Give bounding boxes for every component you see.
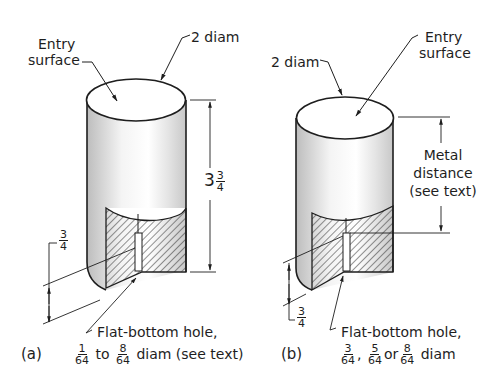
metal-distance-line1: Metal <box>406 146 480 164</box>
metal-distance-line2: distance <box>406 164 480 182</box>
metal-distance-line3: (see text) <box>406 182 480 200</box>
hole-depth-label-a: 34 <box>58 229 69 252</box>
suffix-text: diam <box>421 346 456 362</box>
surface-label-line1: surface <box>419 45 471 61</box>
hole-label-a: Flat-bottom hole, <box>97 324 218 340</box>
size-fraction-2: 864 <box>115 343 131 366</box>
height-fraction: 34 <box>216 170 225 193</box>
suffix-text: diam (see text) <box>136 346 243 362</box>
height-dimension-label-a: 334 <box>204 170 226 193</box>
denominator: 4 <box>59 241 68 252</box>
height-whole: 3 <box>204 170 215 190</box>
denominator: 64 <box>399 355 415 366</box>
entry-surface-label-b: Entry surface <box>419 29 471 61</box>
denominator: 64 <box>115 355 131 366</box>
cylinder-a <box>87 79 187 290</box>
denominator: 4 <box>216 182 225 193</box>
denominator: 64 <box>340 355 356 366</box>
denominator: 64 <box>367 355 383 366</box>
or-separator: or <box>384 346 398 362</box>
denominator: 64 <box>74 355 90 366</box>
comma-separator: , <box>357 346 361 362</box>
hole-size-b: 364, 564or864 diam <box>339 343 456 366</box>
size-fraction-1: 164 <box>74 343 90 366</box>
size-fraction-1: 364 <box>340 343 356 366</box>
surface-label-line1: surface <box>28 52 80 68</box>
depth-fraction: 34 <box>297 306 306 329</box>
to-text: to <box>95 346 109 362</box>
hole-label-b: Flat-bottom hole, <box>341 324 462 340</box>
metal-distance-label: Metal distance (see text) <box>406 146 480 200</box>
entry-label-line1: Entry <box>28 36 80 52</box>
entry-surface-label-a: Entry surface <box>28 36 80 68</box>
size-fraction-3: 864 <box>399 343 415 366</box>
panel-label-a: (a) <box>21 346 42 362</box>
denominator: 4 <box>297 318 306 329</box>
size-fraction-2: 564 <box>367 343 383 366</box>
panel-label-b: (b) <box>281 346 302 362</box>
depth-fraction: 34 <box>59 229 68 252</box>
diameter-label-a: 2 diam <box>191 29 239 45</box>
entry-label-line1: Entry <box>419 29 471 45</box>
cylinder-b <box>296 97 394 290</box>
diameter-label-b: 2 diam <box>271 54 319 70</box>
hole-size-a: 164 to 864 diam (see text) <box>73 343 243 366</box>
hole-depth-label-b: 34 <box>296 306 307 329</box>
